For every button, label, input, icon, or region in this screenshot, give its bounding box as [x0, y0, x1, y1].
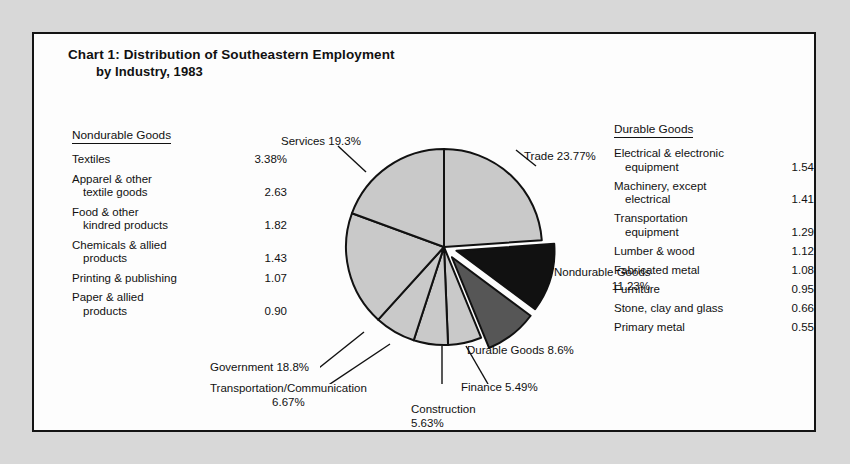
legend-nondurable-value: 1.07 [257, 272, 287, 286]
legend-row: Machinery, exceptelectrical1.41 [614, 180, 814, 207]
legend-durable-label: Electrical & electronicequipment [614, 147, 724, 174]
slice-label-construction: Construction 5.63% [411, 403, 476, 430]
legend-row: Printing & publishing1.07 [72, 272, 287, 286]
slice-label-construction-line2: 5.63% [411, 417, 476, 431]
legend-durable-label-cont: equipment [614, 161, 724, 175]
legend-nondurable-value: 1.82 [257, 219, 287, 233]
legend-row: Primary metal0.55 [614, 321, 814, 335]
legend-nondurable-label: Food & otherkindred products [72, 206, 168, 233]
legend-durable-label: Primary metal [614, 321, 685, 335]
leader-services [338, 146, 366, 172]
legend-row: Paper & alliedproducts0.90 [72, 291, 287, 318]
legend-durable-goods: Durable Goods Electrical & electronicequ… [614, 122, 814, 340]
slice-label-nondurable-line2: 11.23% [554, 280, 650, 294]
slice-label-transport-line1: Transportation/Communication [210, 382, 367, 396]
legend-nondurable-label-cont: textile goods [72, 186, 152, 200]
legend-durable-label: Transportationequipment [614, 212, 688, 239]
slice-label-government: Government 18.8% [210, 361, 309, 375]
legend-nondurable-value: 2.63 [257, 186, 287, 200]
legend-durable-label: Stone, clay and glass [614, 302, 723, 316]
legend-nondurable-label: Chemicals & alliedproducts [72, 239, 167, 266]
legend-nondurable-heading: Nondurable Goods [72, 128, 171, 144]
legend-nondurable-goods: Nondurable Goods Textiles3.38%Apparel & … [72, 128, 287, 324]
legend-nondurable-value: 1.43 [257, 252, 287, 266]
legend-durable-value: 0.95 [784, 283, 814, 297]
legend-durable-label: Machinery, exceptelectrical [614, 180, 706, 207]
legend-row: Stone, clay and glass0.66 [614, 302, 814, 316]
legend-durable-value: 1.41 [784, 193, 814, 207]
legend-row: Lumber & wood1.12 [614, 245, 814, 259]
legend-row: Textiles3.38% [72, 153, 287, 167]
slice-label-finance: Finance 5.49% [461, 381, 538, 395]
slice-label-nondurable-line1: Nondurable Goods [554, 266, 650, 280]
legend-durable-rows: Electrical & electronicequipment1.54Mach… [614, 147, 814, 334]
pie-slice[interactable] [444, 149, 542, 247]
legend-nondurable-label-cont: products [72, 305, 144, 319]
legend-durable-value: 1.29 [784, 226, 814, 240]
chart-title-sub: by Industry, 1983 [68, 63, 395, 80]
legend-durable-label-cont: electrical [614, 193, 706, 207]
legend-row: Electrical & electronicequipment1.54 [614, 147, 814, 174]
slice-label-transportation-communication: Transportation/Communication 6.67% [210, 382, 367, 409]
legend-durable-label: Lumber & wood [614, 245, 695, 259]
leader-transport [320, 344, 390, 384]
legend-row: Chemicals & alliedproducts1.43 [72, 239, 287, 266]
legend-durable-value: 0.55 [784, 321, 814, 335]
legend-durable-heading: Durable Goods [614, 122, 693, 138]
chart-frame: Chart 1: Distribution of Southeastern Em… [32, 32, 816, 432]
legend-nondurable-value: 3.38% [246, 153, 287, 167]
legend-durable-value: 1.08 [784, 264, 814, 278]
slice-label-transport-line2: 6.67% [210, 396, 367, 410]
legend-durable-value: 1.12 [784, 245, 814, 259]
legend-nondurable-label: Textiles [72, 153, 110, 167]
legend-row: Apparel & othertextile goods2.63 [72, 173, 287, 200]
legend-nondurable-label: Apparel & othertextile goods [72, 173, 152, 200]
legend-durable-value: 1.54 [784, 161, 814, 175]
legend-nondurable-label: Printing & publishing [72, 272, 177, 286]
chart-title-main: Chart 1: Distribution of Southeastern Em… [68, 46, 395, 63]
legend-nondurable-rows: Textiles3.38%Apparel & othertextile good… [72, 153, 287, 318]
legend-nondurable-label-cont: products [72, 252, 167, 266]
legend-durable-value: 0.66 [784, 302, 814, 316]
legend-durable-label-cont: equipment [614, 226, 688, 240]
slice-label-construction-line1: Construction [411, 403, 476, 417]
slice-label-services: Services 19.3% [281, 135, 361, 149]
slice-label-durable-goods: Durable Goods 8.6% [467, 344, 574, 358]
slice-label-trade: Trade 23.77% [524, 150, 596, 164]
slice-label-nondurable-goods: Nondurable Goods 11.23% [554, 266, 650, 293]
legend-nondurable-label-cont: kindred products [72, 219, 168, 233]
legend-nondurable-value: 0.90 [257, 305, 287, 319]
legend-row: Food & otherkindred products1.82 [72, 206, 287, 233]
legend-nondurable-label: Paper & alliedproducts [72, 291, 144, 318]
chart-title: Chart 1: Distribution of Southeastern Em… [68, 46, 395, 80]
legend-row: Transportationequipment1.29 [614, 212, 814, 239]
